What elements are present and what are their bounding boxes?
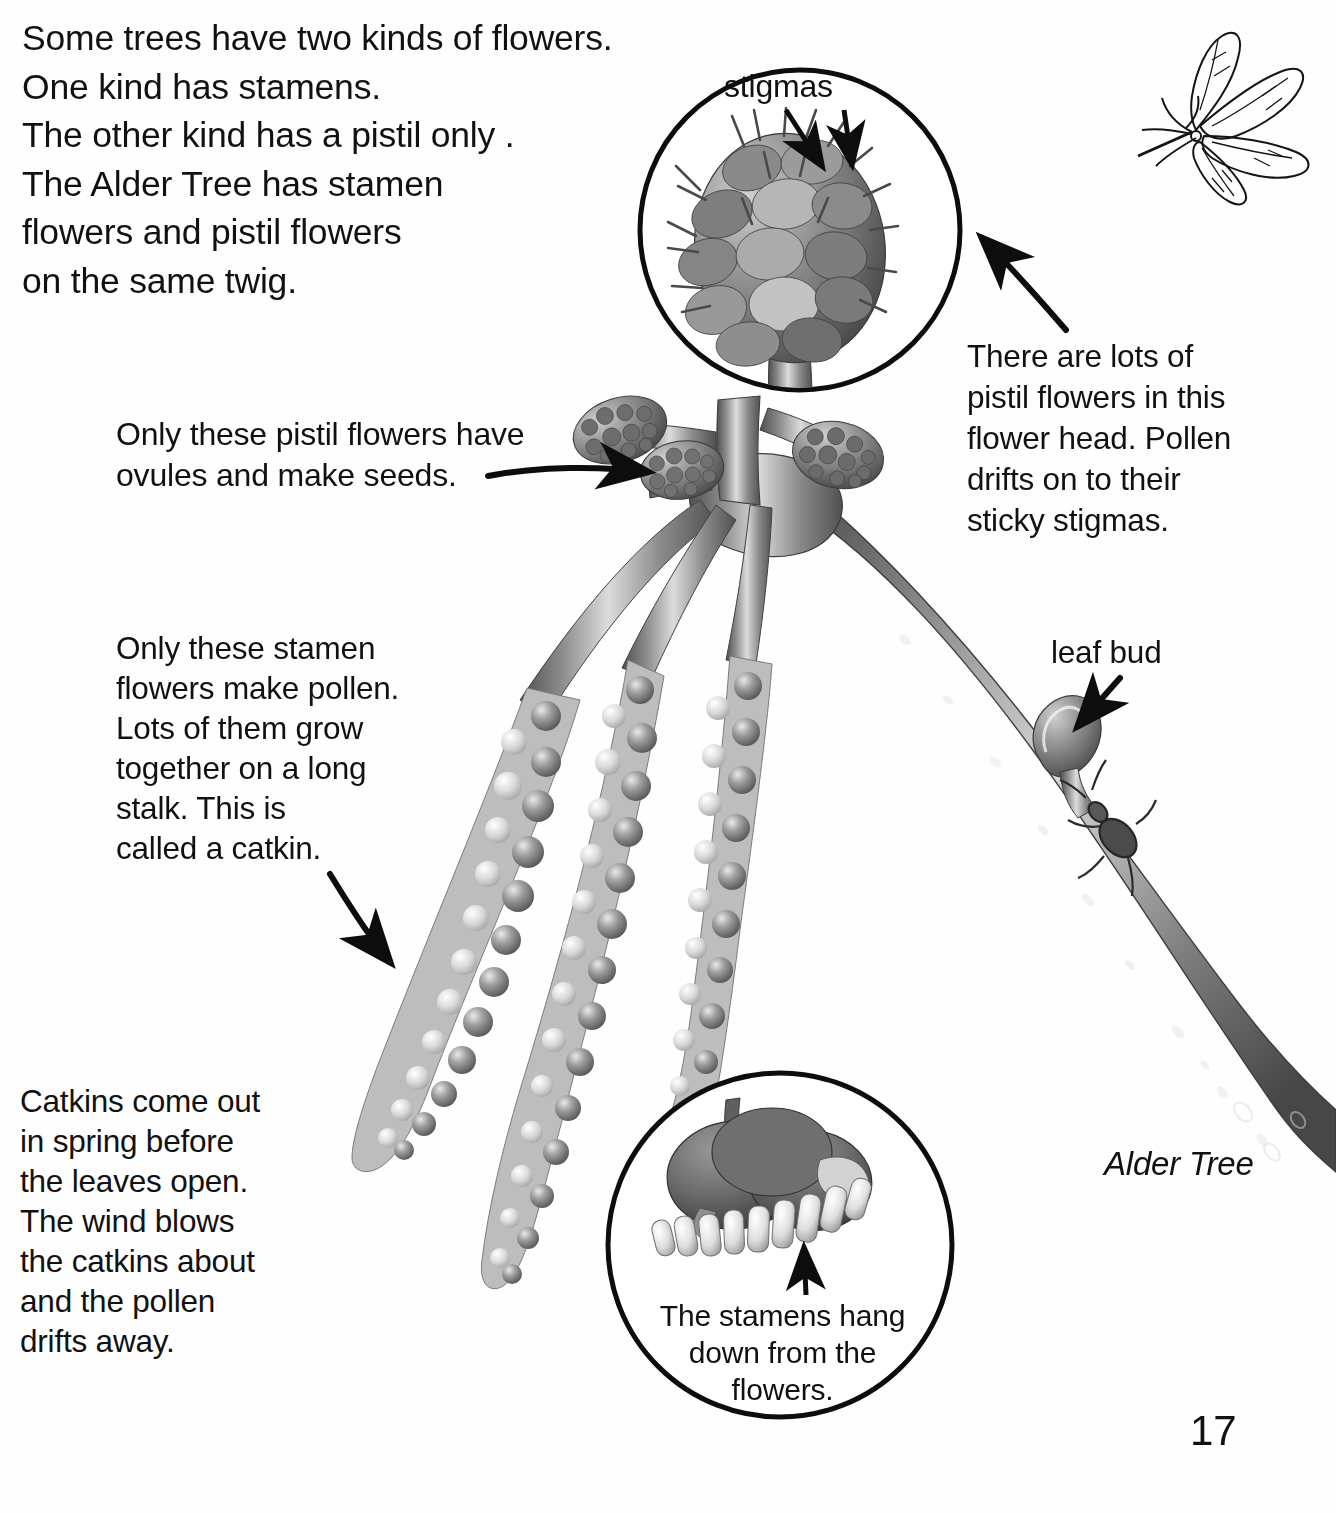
flower-head-note-arrow — [982, 238, 1066, 330]
stigmas-label: stigmas — [724, 68, 833, 104]
twig-branchlet-left-lower — [648, 470, 712, 498]
twig-lenticels — [897, 633, 1270, 1149]
leaf-bud-arrow — [1078, 678, 1120, 726]
stigma-filaments — [668, 108, 898, 312]
female-flower-head — [786, 413, 890, 497]
stamen-pointer-arrow — [804, 1248, 806, 1295]
inset-top — [640, 70, 960, 400]
leaf-bud-label: leaf bud — [1051, 634, 1162, 670]
stamen-flowers-note: Only these stamen flowers make pollen. L… — [116, 628, 416, 868]
catkin-stalk — [622, 505, 736, 678]
book-page: Some trees have two kinds of flowers. On… — [0, 0, 1336, 1513]
catkin-beads — [490, 676, 657, 1284]
catkin-stalk — [726, 505, 772, 664]
catkin-stalk — [520, 500, 716, 716]
twig-branchlet-right-lower — [814, 450, 866, 483]
female-flower-heads — [564, 385, 889, 505]
twig-node — [689, 454, 842, 557]
stamen-flower-lobes — [662, 1108, 879, 1240]
catkin-beads — [670, 672, 762, 1115]
catkin-group — [352, 500, 772, 1289]
flower-head-body — [680, 121, 900, 375]
catkin — [481, 660, 664, 1289]
page-number: 17 — [1190, 1407, 1236, 1455]
catkin-note-arrow — [330, 874, 390, 962]
twig-branchlet-right — [760, 408, 850, 462]
flower-head-stalk — [717, 396, 760, 505]
catkins-spring-note: Catkins come out in spring before the le… — [20, 1081, 290, 1361]
female-flower-head — [636, 435, 727, 504]
twig-main-branch — [795, 492, 1336, 1172]
leaf-bud — [1033, 696, 1101, 818]
intro-paragraph: Some trees have two kinds of flowers. On… — [22, 14, 682, 305]
catkin — [670, 656, 772, 1116]
flower-head-scales — [672, 137, 876, 369]
stigmas-arrows — [786, 110, 852, 166]
flower-head-note: There are lots of pistil flowers in this… — [967, 336, 1277, 541]
species-caption: Alder Tree — [1104, 1145, 1254, 1183]
stamen-inset-caption: The stamens hang down from the flowers. — [630, 1297, 935, 1408]
alder-leaf-sketch-icon — [1138, 33, 1309, 204]
twig-branchlet-left-upper — [632, 424, 716, 456]
anthers — [650, 1176, 873, 1258]
weevil-insect — [1060, 760, 1156, 896]
pistil-flowers-note: Only these pistil flowers have ovules an… — [116, 414, 586, 496]
